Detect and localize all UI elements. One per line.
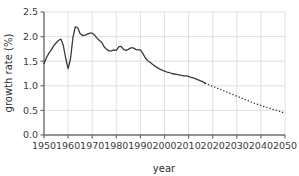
x-tick-label: 2050 bbox=[273, 140, 297, 151]
x-tick-label: 1980 bbox=[104, 140, 128, 151]
y-tick-label: 1.0 bbox=[23, 80, 38, 91]
x-tick-label: 1970 bbox=[80, 140, 104, 151]
x-tick-label: 1990 bbox=[128, 140, 152, 151]
x-tick-label: 2020 bbox=[201, 140, 225, 151]
y-axis-title: growth rate (%) bbox=[3, 34, 14, 113]
projected-line bbox=[205, 83, 285, 113]
x-tick-label: 2040 bbox=[249, 140, 273, 151]
x-tick-label: 1960 bbox=[56, 140, 80, 151]
x-axis-title: year bbox=[153, 163, 176, 174]
y-tick-label: 0.5 bbox=[23, 105, 38, 116]
x-tick-label: 2000 bbox=[152, 140, 176, 151]
y-tick-label: 2.0 bbox=[23, 31, 38, 42]
x-tick-label: 1950 bbox=[32, 140, 56, 151]
y-tick-label: 2.5 bbox=[23, 6, 38, 17]
y-tick-label: 0.0 bbox=[23, 129, 38, 140]
x-tick-label: 2010 bbox=[177, 140, 201, 151]
x-tick-labels: 1950196019701980199020002010202020302040… bbox=[32, 140, 297, 151]
x-tick-label: 2030 bbox=[225, 140, 249, 151]
axis-ticks bbox=[41, 12, 286, 139]
growth-rate-chart: 1950196019701980199020002010202020302040… bbox=[0, 0, 299, 176]
chart-canvas: 1950196019701980199020002010202020302040… bbox=[0, 0, 299, 176]
grid-lines bbox=[44, 12, 285, 135]
y-tick-labels: 0.00.51.01.52.02.5 bbox=[23, 6, 38, 140]
y-tick-label: 1.5 bbox=[23, 56, 38, 67]
